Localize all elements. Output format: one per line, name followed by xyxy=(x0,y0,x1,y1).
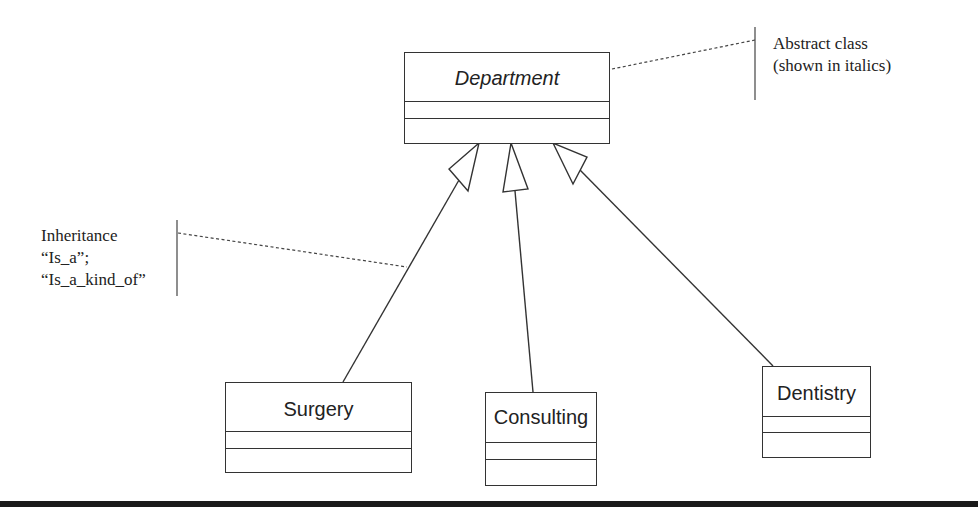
page-bottom-rule xyxy=(0,501,978,507)
class-dentistry: Dentistry xyxy=(762,366,871,458)
generalization-arrowhead-icon xyxy=(503,143,528,192)
abstract-class-note: Abstract class (shown in italics) xyxy=(773,33,891,77)
attributes-divider xyxy=(486,442,596,443)
class-surgery: Surgery xyxy=(225,382,412,473)
inheritance-note-leader xyxy=(178,233,407,267)
class-name: Department xyxy=(405,67,609,90)
attributes-divider xyxy=(405,101,609,102)
note-line: “Is_a_kind_of” xyxy=(41,269,146,291)
operations-divider xyxy=(763,432,870,433)
note-line: Abstract class xyxy=(773,33,891,55)
note-line: “Is_a”; xyxy=(41,247,146,269)
class-name: Consulting xyxy=(486,406,596,429)
class-consulting: Consulting xyxy=(485,392,597,486)
operations-divider xyxy=(486,459,596,460)
operations-divider xyxy=(405,118,609,119)
attributes-divider xyxy=(226,431,411,432)
note-line: (shown in italics) xyxy=(773,55,891,77)
note-line: Inheritance xyxy=(41,225,146,247)
class-department: Department xyxy=(404,52,610,144)
surgery-inheritance-line xyxy=(343,180,459,382)
dentistry-inheritance-line xyxy=(580,170,773,366)
consulting-inheritance-line xyxy=(515,191,533,392)
attributes-divider xyxy=(763,416,870,417)
generalization-arrowhead-icon xyxy=(449,143,479,191)
class-name: Dentistry xyxy=(763,382,870,405)
operations-divider xyxy=(226,448,411,449)
inheritance-note: Inheritance “Is_a”; “Is_a_kind_of” xyxy=(41,225,146,291)
class-name: Surgery xyxy=(226,398,411,421)
abstract-note-leader xyxy=(612,40,755,69)
generalization-arrowhead-icon xyxy=(553,143,587,184)
